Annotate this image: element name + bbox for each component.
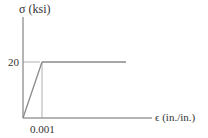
x-tick-label-0001: 0.001 — [30, 124, 55, 135]
x-axis-label: ϵ (in./in.) — [155, 112, 195, 123]
y-tick-label-20: 20 — [8, 57, 19, 68]
elastic-segment — [23, 62, 42, 118]
y-axis-label: σ (ksi) — [19, 3, 50, 15]
